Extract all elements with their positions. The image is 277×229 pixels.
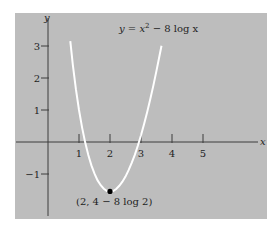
x-tick-label: 2 — [107, 148, 113, 159]
equation-title: y = x2 − 8 log x — [118, 22, 199, 34]
equation-prefix: y = x — [118, 23, 145, 34]
x-tick-label: 4 — [169, 148, 175, 159]
x-tick-label: 5 — [200, 148, 206, 159]
y-axis-label: y — [43, 12, 50, 23]
function-plot: x y 12345 321−1 (2, 4 − 8 log 2) y = x2 … — [0, 0, 277, 229]
x-tick-label: 1 — [76, 148, 82, 159]
equation-suffix: − 8 log x — [150, 23, 199, 34]
y-tick-label: 3 — [34, 41, 40, 52]
y-tick-label: 2 — [34, 73, 40, 84]
y-tick-label: −1 — [25, 169, 40, 180]
minimum-point-label: (2, 4 − 8 log 2) — [76, 196, 152, 207]
plot-panel — [15, 13, 267, 219]
minimum-point-marker — [107, 189, 112, 194]
x-axis-label: x — [260, 136, 266, 147]
y-tick-label: 1 — [34, 105, 40, 116]
x-tick-label: 3 — [138, 148, 144, 159]
